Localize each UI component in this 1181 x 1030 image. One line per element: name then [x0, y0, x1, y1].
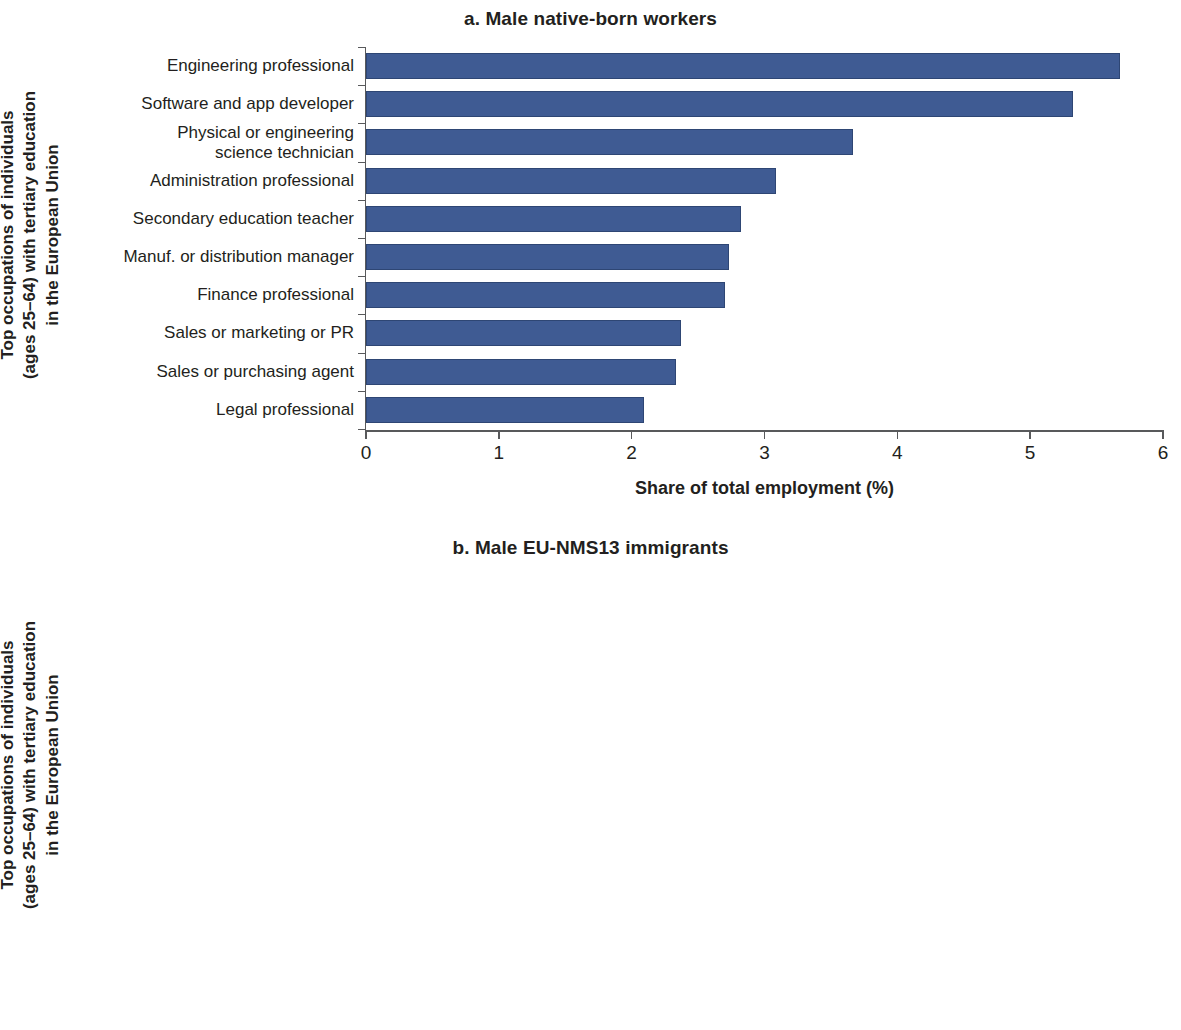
- chart-a-plot-area: Engineering professionalSoftware and app…: [366, 47, 1163, 429]
- chart-b-title: b. Male EU-NMS13 immigrants: [0, 537, 1181, 559]
- bar-row: Physical or engineering science technici…: [366, 123, 1163, 161]
- bar: [366, 168, 776, 194]
- x-axis-tick-label: 5: [1025, 442, 1036, 464]
- bar-row: Sales or marketing or PR: [366, 314, 1163, 352]
- bar: [366, 129, 853, 155]
- category-label: Physical or engineering science technici…: [54, 123, 354, 161]
- chart-a-x-axis: 0123456: [366, 430, 1163, 432]
- bar: [366, 244, 729, 270]
- chart-b-y-axis-title: Top occupations of individuals (ages 25–…: [0, 575, 62, 955]
- bar: [366, 53, 1120, 79]
- x-axis-tick-label: 1: [494, 442, 505, 464]
- chart-panel-a: a. Male native-born workers Top occupati…: [0, 0, 1181, 510]
- chart-panel-b: b. Male EU-NMS13 immigrants Top occupati…: [0, 520, 1181, 1030]
- bar: [366, 320, 681, 346]
- category-label: Manuf. or distribution manager: [54, 248, 354, 267]
- x-axis-tick: [897, 430, 899, 439]
- category-tick: [358, 162, 366, 163]
- category-tick: [358, 123, 366, 124]
- category-label: Administration professional: [54, 171, 354, 190]
- chart-a-title: a. Male native-born workers: [0, 8, 1181, 30]
- x-axis-tick: [1029, 430, 1031, 439]
- y-axis-title-line-1: Top occupations of individuals: [0, 91, 20, 379]
- chart-a-y-axis-title: Top occupations of individuals (ages 25–…: [0, 45, 62, 425]
- category-tick: [358, 85, 366, 86]
- category-label: Sales or marketing or PR: [54, 324, 354, 343]
- category-label: Finance professional: [54, 286, 354, 305]
- y-axis-title-line-2: (ages 25–64) with tertiary education: [20, 621, 42, 909]
- bar-row: Administration professional: [366, 162, 1163, 200]
- bar-row: Secondary education teacher: [366, 200, 1163, 238]
- bar-row: Manuf. or distribution manager: [366, 238, 1163, 276]
- bar-row: Legal professional: [366, 391, 1163, 429]
- y-axis-title-line-3: in the European Union: [42, 621, 64, 909]
- x-axis-tick-label: 0: [361, 442, 372, 464]
- x-axis-tick-label: 3: [759, 442, 770, 464]
- category-label: Legal professional: [54, 400, 354, 419]
- category-tick: [358, 47, 366, 48]
- category-label: Sales or purchasing agent: [54, 362, 354, 381]
- x-axis-tick: [631, 430, 633, 439]
- x-axis-tick: [1162, 430, 1164, 439]
- bar: [366, 206, 741, 232]
- x-axis-tick: [764, 430, 766, 439]
- chart-a-x-axis-title: Share of total employment (%): [366, 478, 1163, 499]
- bar: [366, 397, 644, 423]
- x-axis-tick: [365, 430, 367, 439]
- category-label: Secondary education teacher: [54, 209, 354, 228]
- bar: [366, 359, 676, 385]
- bar-row: Finance professional: [366, 276, 1163, 314]
- category-tick: [358, 276, 366, 277]
- x-axis-tick: [498, 430, 500, 439]
- x-axis-tick-label: 4: [892, 442, 903, 464]
- chart-a-bar-rows: Engineering professionalSoftware and app…: [366, 47, 1163, 429]
- bar: [366, 91, 1073, 117]
- y-axis-title-line-2: (ages 25–64) with tertiary education: [20, 91, 42, 379]
- y-axis-title-line-1: Top occupations of individuals: [0, 621, 20, 909]
- category-tick: [358, 353, 366, 354]
- category-label: Engineering professional: [54, 57, 354, 76]
- category-label: Software and app developer: [54, 95, 354, 114]
- bar-row: Sales or purchasing agent: [366, 353, 1163, 391]
- bar: [366, 282, 725, 308]
- bar-row: Software and app developer: [366, 85, 1163, 123]
- bar-row: Engineering professional: [366, 47, 1163, 85]
- category-tick: [358, 238, 366, 239]
- category-tick: [358, 391, 366, 392]
- figure-container: a. Male native-born workers Top occupati…: [0, 0, 1181, 1030]
- x-axis-tick-label: 6: [1158, 442, 1169, 464]
- category-tick: [358, 314, 366, 315]
- x-axis-tick-label: 2: [626, 442, 637, 464]
- category-tick: [358, 200, 366, 201]
